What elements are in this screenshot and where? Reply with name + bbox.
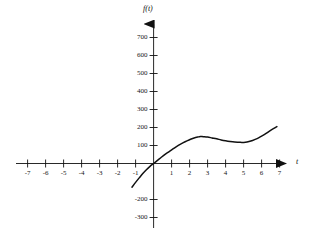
y-tick-label: -300: [114, 214, 148, 221]
x-tick-label: 2: [180, 170, 200, 177]
x-axis-title: t: [296, 158, 298, 166]
y-axis: [150, 24, 158, 228]
x-tick-label: -6: [36, 170, 56, 177]
y-tick-label: 200: [114, 124, 148, 131]
y-tick-label: 100: [114, 142, 148, 149]
x-tick-label: 7: [270, 170, 290, 177]
y-axis-title: f(t): [143, 5, 153, 13]
x-tick-label: -1: [126, 170, 146, 177]
x-tick-label: 3: [198, 170, 218, 177]
y-tick-label: 600: [114, 52, 148, 59]
x-tick-label: 4: [216, 170, 236, 177]
y-tick-label: 500: [114, 70, 148, 77]
y-tick-label: 400: [114, 88, 148, 95]
x-tick-label: 1: [162, 170, 182, 177]
x-tick-label: -7: [18, 170, 38, 177]
y-tick-label: -200: [114, 196, 148, 203]
x-tick-label: -3: [90, 170, 110, 177]
x-tick-label: -5: [54, 170, 74, 177]
y-tick-label: 300: [114, 106, 148, 113]
x-tick-label: 6: [252, 170, 272, 177]
x-tick-label: -2: [108, 170, 128, 177]
x-tick-label: -4: [72, 170, 92, 177]
y-tick-label: 700: [114, 34, 148, 41]
x-tick-label: 5: [234, 170, 254, 177]
function-graph-figure: f(t) t -7-6-5-4-3-2-11234567 70060050040…: [0, 0, 316, 237]
plot-canvas: [0, 0, 316, 237]
